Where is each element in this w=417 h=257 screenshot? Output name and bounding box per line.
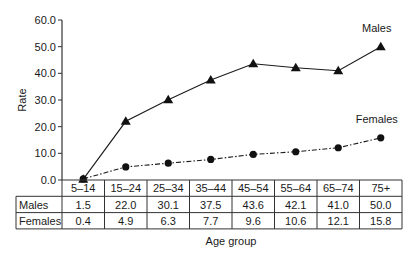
y-axis: 0.010.020.030.040.050.060.0 [35,14,62,186]
table-cell: 0.4 [76,215,91,227]
table-cell: 43.6 [243,199,264,211]
table-cell: 10.6 [285,215,306,227]
table-cell: 50.0 [370,199,391,211]
circle-marker [250,151,257,158]
x-category-label: 25–34 [153,182,184,194]
table-cell: 12.1 [328,215,349,227]
table-cell: 37.5 [200,199,221,211]
x-category-label: 45–54 [238,182,269,194]
line-chart: 0.010.020.030.040.050.060.0 Rate MalesFe… [0,0,417,257]
x-category-label: 65–74 [323,182,354,194]
y-tick-label: 0.0 [41,174,56,186]
circle-marker [292,148,299,155]
table-cell: 22.0 [115,199,136,211]
triangle-marker [121,116,131,125]
table-row-label: Males [19,199,49,211]
y-axis-title: Rate [16,88,28,111]
table-cell: 41.0 [328,199,349,211]
y-tick-label: 20.0 [35,121,56,133]
triangle-marker [163,95,173,104]
x-category-label: 75+ [371,182,390,194]
circle-marker [377,134,384,141]
x-category-label: 35–44 [195,182,226,194]
x-category-label: 15–24 [110,182,141,194]
table-cell: 7.7 [203,215,218,227]
table-cell: 4.9 [118,215,133,227]
series-label-males: Males [362,22,392,34]
circle-marker [122,163,129,170]
triangle-marker [376,42,386,51]
x-category-label: 5–14 [71,182,95,194]
y-tick-label: 60.0 [35,14,56,26]
y-tick-label: 10.0 [35,147,56,159]
table-row-label: Females [19,215,62,227]
series-label-females: Females [356,113,399,125]
series-males: Males [78,22,392,183]
data-table: 5–1415–2425–3435–4445–5455–6465–7475+Mal… [16,180,402,229]
series-line [83,138,381,179]
circle-marker [207,156,214,163]
table-cell: 30.1 [158,199,179,211]
y-tick-label: 50.0 [35,41,56,53]
y-tick-label: 40.0 [35,67,56,79]
triangle-marker [248,59,258,67]
table-cell: 42.1 [285,199,306,211]
table-cell: 9.6 [246,215,261,227]
x-category-label: 55–64 [280,182,311,194]
circle-marker [335,144,342,151]
x-axis-title: Age group [206,235,257,247]
table-cell: 1.5 [76,199,91,211]
table-cell: 6.3 [161,215,176,227]
series-layer: MalesFemales [78,22,398,183]
y-tick-label: 30.0 [35,94,56,106]
circle-marker [165,160,172,167]
table-cell: 15.8 [370,215,391,227]
series-line [83,47,381,180]
